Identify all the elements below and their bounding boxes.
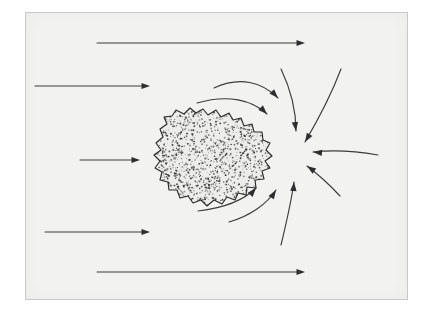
converging-arrow-bottom-mid-shaft xyxy=(281,182,294,245)
converging-arrow-right-head xyxy=(313,150,322,156)
inflow-arrow-bottom-head xyxy=(297,269,306,275)
converging-arrow-top-right-head xyxy=(305,133,312,142)
inflow-arrow-top-head xyxy=(297,40,306,46)
inflow-arrow-lower-head xyxy=(142,229,151,235)
inflow-arrow-middle-head xyxy=(132,157,141,163)
inflow-arrow-lower xyxy=(45,229,150,235)
inflow-arrow-upper-head xyxy=(142,83,151,89)
converging-arrow-right-shaft xyxy=(313,151,378,155)
converging-arrow-top-left xyxy=(281,69,298,131)
deflected-arrow-upper-inner xyxy=(214,82,278,98)
deflected-arrow-upper-outer xyxy=(197,99,267,114)
inflow-arrow-upper xyxy=(35,83,150,89)
converging-arrow-right xyxy=(313,150,378,156)
deflected-arrow-upper-inner-shaft xyxy=(214,82,278,98)
converging-arrow-top-left-head xyxy=(292,122,298,131)
inflow-arrow-middle xyxy=(80,157,140,163)
deflected-arrow-lower-inner-head xyxy=(248,188,256,197)
converging-arrow-bottom-right xyxy=(307,166,340,196)
converging-arrow-bottom-mid xyxy=(281,182,297,245)
figure-root xyxy=(0,0,424,320)
deflected-arrow-upper-outer-head xyxy=(258,105,267,114)
converging-arrow-top-right-shaft xyxy=(305,69,341,142)
deflected-arrow-upper-inner-head xyxy=(270,89,278,98)
converging-arrow-top-right xyxy=(305,69,341,142)
converging-arrow-top-left-shaft xyxy=(281,69,296,131)
flow-diagram xyxy=(0,0,424,320)
deflected-arrow-upper-outer-shaft xyxy=(197,99,267,114)
inflow-arrow-bottom xyxy=(97,269,305,275)
inflow-arrow-top xyxy=(97,40,305,46)
